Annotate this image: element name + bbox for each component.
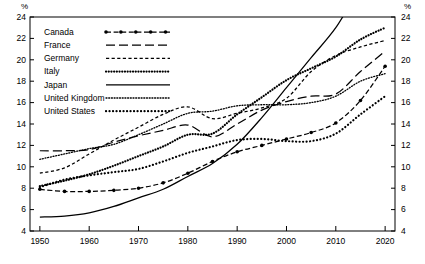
x-tick-label: 1970 bbox=[124, 237, 154, 246]
y-tick-label-left: 22 bbox=[4, 34, 26, 43]
y-tick-label-left: 14 bbox=[4, 120, 26, 129]
y-tick-label-left: 16 bbox=[4, 98, 26, 107]
series-marker-canada bbox=[137, 186, 141, 190]
legend-marker-canada bbox=[164, 30, 168, 34]
series-marker-canada bbox=[161, 181, 165, 185]
x-axis-ticks bbox=[40, 226, 385, 231]
y-tick-label-left: 10 bbox=[4, 163, 26, 172]
legend-label-france: France bbox=[44, 41, 70, 50]
legend-line-samples bbox=[104, 30, 170, 111]
series-marker-canada bbox=[359, 99, 363, 103]
legend-label-germany: Germany bbox=[44, 54, 79, 63]
y-tick-label-left: 6 bbox=[4, 205, 26, 214]
legend-marker-canada bbox=[104, 30, 108, 34]
y-tick-label-left: 20 bbox=[4, 56, 26, 65]
x-tick-label: 2000 bbox=[271, 237, 301, 246]
series-marker-canada bbox=[309, 131, 313, 135]
y-tick-label-left: 24 bbox=[4, 13, 26, 22]
y-tick-label-right: 6 bbox=[401, 205, 423, 214]
y-tick-label-right: 24 bbox=[401, 13, 423, 22]
legend-label-united-kingdom: United Kingdom bbox=[44, 94, 104, 103]
series-marker-canada bbox=[87, 190, 91, 194]
y-axis-ticks bbox=[30, 17, 395, 231]
series-marker-canada bbox=[334, 121, 338, 125]
x-tick-label: 1990 bbox=[222, 237, 252, 246]
series-marker-canada bbox=[383, 64, 387, 68]
y-tick-label-right: 16 bbox=[401, 98, 423, 107]
y-tick-label-right: 12 bbox=[401, 141, 423, 150]
y-tick-label-right: 10 bbox=[401, 163, 423, 172]
series-marker-canada bbox=[63, 190, 67, 194]
legend-marker-canada bbox=[149, 30, 153, 34]
legend-label-united-states: United States bbox=[44, 107, 95, 116]
legend-marker-canada bbox=[134, 30, 138, 34]
legend-label-japan: Japan bbox=[44, 81, 67, 90]
y-tick-label-right: 22 bbox=[401, 34, 423, 43]
legend-label-italy: Italy bbox=[44, 67, 60, 76]
y-tick-label-right: 14 bbox=[401, 120, 423, 129]
chart-container: % % 4681012141618202224 4681012141618202… bbox=[0, 0, 425, 264]
y-tick-label-left: 18 bbox=[4, 77, 26, 86]
x-tick-label: 1980 bbox=[173, 237, 203, 246]
y-tick-label-right: 18 bbox=[401, 77, 423, 86]
y-tick-label-right: 20 bbox=[401, 56, 423, 65]
x-tick-label: 1960 bbox=[74, 237, 104, 246]
y-tick-label-left: 8 bbox=[4, 184, 26, 193]
x-tick-label: 1950 bbox=[25, 237, 55, 246]
x-tick-label: 2020 bbox=[370, 237, 400, 246]
series-marker-canada bbox=[260, 144, 264, 148]
y-tick-label-left: 4 bbox=[4, 227, 26, 236]
legend-label-canada: Canada bbox=[44, 28, 74, 37]
series-marker-canada bbox=[186, 171, 190, 175]
x-tick-label: 2010 bbox=[321, 237, 351, 246]
y-tick-label-right: 4 bbox=[401, 227, 423, 236]
series-marker-canada bbox=[235, 150, 239, 154]
series-marker-canada bbox=[112, 189, 116, 193]
y-tick-label-right: 8 bbox=[401, 184, 423, 193]
plot-frame bbox=[30, 17, 395, 231]
y-tick-label-left: 12 bbox=[4, 141, 26, 150]
legend-marker-canada bbox=[119, 30, 123, 34]
